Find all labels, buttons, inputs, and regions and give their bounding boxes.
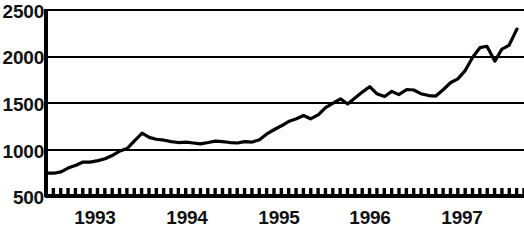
x-tick-label-1995: 1995 xyxy=(244,207,314,229)
data-series-line xyxy=(46,29,517,173)
x-tick-label-1994: 1994 xyxy=(152,207,222,229)
y-tick-label-2500: 2500 xyxy=(0,1,44,23)
line-chart-figure: 2500 2000 1500 1000 500 1993 1994 1995 1… xyxy=(0,0,524,237)
y-tick-label-500: 500 xyxy=(0,187,44,209)
chart-plot-area xyxy=(0,0,524,237)
y-tick-label-1000: 1000 xyxy=(0,141,44,163)
gridlines xyxy=(45,10,524,150)
x-tick-label-1993: 1993 xyxy=(60,207,130,229)
y-tick-label-1500: 1500 xyxy=(0,94,44,116)
x-tick-label-1996: 1996 xyxy=(335,207,405,229)
y-tick-label-2000: 2000 xyxy=(0,47,44,69)
x-tick-label-1997: 1997 xyxy=(427,207,497,229)
